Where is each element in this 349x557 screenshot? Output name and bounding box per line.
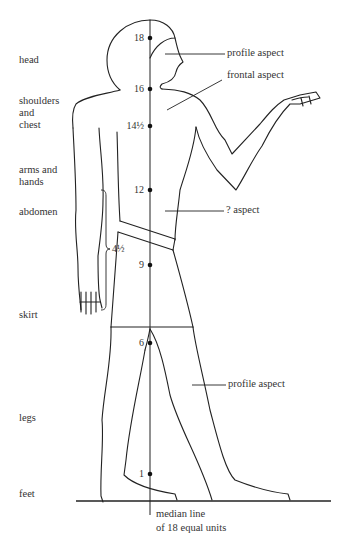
annotation-arm-span: 4½: [112, 243, 125, 254]
mark-12-dot: [148, 188, 153, 193]
front-leg-inner: [150, 329, 212, 500]
mark-12-label: 12: [114, 184, 144, 195]
mark-18-dot: [148, 36, 153, 41]
region-label-abdomen: abdomen: [19, 206, 58, 218]
mark-18-label: 18: [114, 32, 144, 43]
left-hand: [80, 292, 100, 314]
annotation-profile-legs: profile aspect: [228, 378, 285, 389]
head-outline: [107, 20, 150, 90]
frontal-leader: [167, 80, 222, 110]
torso-right: [175, 127, 196, 240]
mark-6-dot: [148, 341, 153, 346]
skirt-right: [173, 250, 193, 327]
caption-line1: median line: [156, 508, 205, 519]
mark-16-dot: [148, 87, 153, 92]
mark-14-5-dot: [148, 124, 153, 129]
belt-bottom: [118, 232, 173, 250]
annotation-unknown-aspect: ? aspect: [226, 204, 260, 215]
annotation-frontal: frontal aspect: [227, 69, 284, 80]
front-leg-outer: [193, 327, 290, 500]
right-shoulder-arm: [162, 89, 320, 190]
region-label-feet: feet: [19, 488, 35, 500]
left-shoulder: [72, 90, 120, 128]
torso-left: [117, 132, 120, 221]
mark-1-dot: [148, 472, 153, 477]
region-label-legs: legs: [19, 412, 36, 424]
region-label-skirt: skirt: [19, 309, 38, 321]
region-label-arms-hands: arms and hands: [19, 164, 57, 188]
wig-line: [150, 20, 175, 58]
left-arm-inner: [98, 128, 103, 308]
belt-end: [173, 239, 175, 250]
region-label-head: head: [19, 54, 39, 66]
mark-16-label: 16: [114, 83, 144, 94]
left-arm-outer: [73, 128, 81, 310]
mark-9-dot: [148, 263, 153, 268]
mark-9-label: 9: [114, 259, 144, 270]
face-profile: [160, 38, 183, 89]
annotation-profile-head: profile aspect: [227, 47, 284, 58]
mark-6-label: 6: [114, 337, 144, 348]
back-leg-outer: [101, 327, 111, 502]
belt-top: [120, 221, 175, 239]
mark-14-5-label: 14½: [114, 120, 144, 131]
mark-1-label: 1: [114, 468, 144, 479]
crotch: [145, 329, 150, 350]
figure-drawing: [0, 0, 349, 557]
region-label-shoulders-chest: shoulders and chest: [19, 95, 59, 131]
caption-line2: of 18 equal units: [156, 522, 226, 533]
